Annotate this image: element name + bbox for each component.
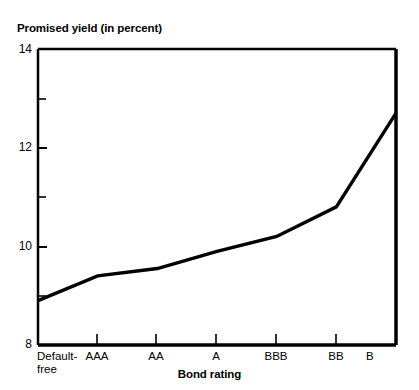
x-tick-label-bbb: BBB [246,350,306,362]
x-tick-label-b: B [366,350,419,362]
x-axis-title: Bond rating [0,368,419,380]
chart-figure: Promised yield (in percent) 14 12 10 8 D… [0,0,419,390]
promised-yield-line [38,113,396,300]
x-tick-label-aa: AA [126,350,186,362]
y-tick-label-12: 12 [8,140,32,154]
plot-area [0,0,419,390]
y-tick-label-14: 14 [8,42,32,56]
y-tick-label-10: 10 [8,239,32,253]
x-tick-label-bb: BB [306,350,366,362]
x-tick-label-aaa: AAA [67,350,127,362]
x-tick-label-a: A [186,350,246,362]
y-tick-label-8: 8 [8,337,32,351]
